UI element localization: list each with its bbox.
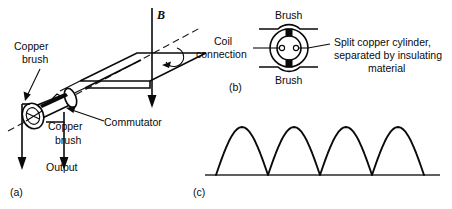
brush-upper-label: Brush: [275, 9, 303, 21]
part-c-caption: (c): [193, 186, 205, 198]
part-b-caption: (b): [229, 81, 242, 93]
split-cylinder-label-line2: separated by insulating: [334, 49, 442, 61]
part-b-split-cylinder-detail: [253, 25, 330, 72]
coil-connection-label-line2: connection: [196, 48, 247, 60]
coil-connection-node-right: [293, 45, 298, 50]
insulating-gap-top: [286, 29, 293, 37]
coil-connection-node-left: [279, 45, 284, 50]
part-c-output-waveform: [205, 127, 440, 175]
upper-brush-output-arrowhead: [18, 157, 27, 170]
magnetic-field-label: B: [156, 8, 165, 22]
copper-brush-top-label-line1: Copper: [14, 40, 49, 52]
copper-brush-top-leader-arrowhead: [24, 92, 31, 102]
commutator-leader: [66, 106, 104, 122]
split-cylinder-leader-line: [308, 44, 330, 48]
output-label: Output: [46, 161, 78, 173]
insulating-gap-bottom: [286, 60, 293, 68]
part-a-generator-assembly: [8, 8, 206, 170]
split-cylinder-label-line3: material: [368, 62, 405, 74]
field-arrowhead: [148, 95, 157, 108]
coil-plane-outline: [80, 53, 206, 81]
copper-brush-bottom-label-line2: brush: [55, 134, 81, 146]
part-a-caption: (a): [10, 186, 23, 198]
waveform-curve: [216, 127, 424, 175]
coil-connection-label-line1: Coil: [214, 35, 232, 47]
coil-lower-return-edge: [85, 81, 150, 88]
copper-brush-top-label-line2: brush: [22, 53, 48, 65]
commutator-label: Commutator: [104, 116, 162, 128]
copper-brush-top-leader-line: [27, 69, 40, 96]
brush-lower-label: Brush: [275, 74, 303, 86]
magnetic-field-arrow: [148, 8, 157, 108]
dc-generator-commutator-figure: Copper brush Copper brush Commutator Out…: [0, 0, 452, 209]
copper-brush-bottom-label-line1: Copper: [48, 120, 83, 132]
split-cylinder-label-line1: Split copper cylinder,: [334, 36, 431, 48]
copper-brush-top-leader: [24, 69, 40, 101]
figure-container: Copper brush Copper brush Commutator Out…: [0, 0, 452, 209]
